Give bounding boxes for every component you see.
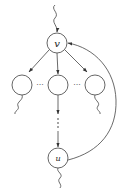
right-wavy-tail: [95, 95, 100, 114]
vdot-3: [57, 126, 59, 128]
edge-v-left: [29, 50, 49, 72]
node-right: [85, 75, 105, 95]
incoming-wavy-edge: [54, 5, 58, 32]
graph-diagram: v u ··· ···: [0, 0, 128, 195]
node-u-label: u: [55, 154, 60, 163]
node-v-label: v: [54, 38, 60, 49]
node-left: [12, 75, 32, 95]
ellipsis-left: ···: [36, 80, 44, 89]
edge-v-mid: [57, 53, 58, 74]
vdot-1: [57, 118, 59, 120]
edge-v-right: [65, 50, 87, 72]
left-wavy-tail: [15, 95, 22, 114]
node-mid: [48, 75, 68, 95]
vdot-2: [57, 122, 59, 124]
u-wavy-tail: [58, 168, 61, 188]
ellipsis-right: ···: [73, 80, 81, 89]
